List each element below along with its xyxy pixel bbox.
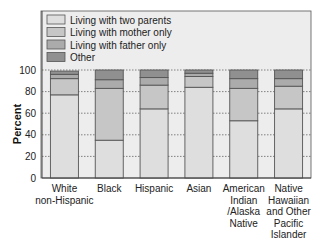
y-axis-label: Percent [11, 103, 23, 144]
x-tick-label: Hispanic [135, 183, 173, 194]
bar-segment-other [140, 70, 168, 78]
legend-label: Living with father only [70, 40, 166, 51]
stacked-bar-chart: Living with two parentsLiving with mothe… [0, 0, 327, 252]
bar-segment-living-with-father-only [230, 79, 258, 89]
legend-label: Living with two parents [70, 15, 171, 26]
bar-segment-living-with-father-only [50, 74, 78, 78]
y-tick-label: 80 [25, 86, 37, 97]
x-tick-label: NativeHawaiianand OtherPacificIslander [266, 183, 311, 240]
bar-segment-other [50, 71, 78, 74]
bar-segment-living-with-mother-only [140, 85, 168, 109]
y-tick-label: 100 [19, 65, 36, 76]
bar-segment-living-with-two-parents [230, 121, 258, 178]
x-tick-label: AmericanIndian/AlaskaNative [223, 183, 265, 229]
bar-segment-living-with-mother-only [230, 88, 258, 120]
bar-segment-living-with-mother-only [185, 76, 213, 87]
bar-segment-living-with-mother-only [50, 79, 78, 95]
bar-segment-living-with-father-only [140, 78, 168, 86]
bar-segment-living-with-mother-only [275, 86, 303, 109]
bar-segment-living-with-two-parents [140, 109, 168, 178]
x-tick-label: Black [97, 183, 122, 194]
bar-segment-other [95, 70, 123, 80]
bar-segment-living-with-two-parents [275, 109, 303, 178]
bar-segment-living-with-father-only [185, 73, 213, 76]
y-tick-label: 0 [30, 173, 36, 184]
legend-swatch [47, 28, 65, 37]
legend-label: Other [70, 52, 96, 63]
bar-segment-living-with-two-parents [185, 87, 213, 178]
y-tick-label: 20 [25, 151, 37, 162]
bar-segment-living-with-father-only [95, 80, 123, 89]
y-tick-label: 60 [25, 108, 37, 119]
bar-segment-other [275, 70, 303, 79]
bar-segment-living-with-two-parents [95, 140, 123, 178]
bar-segment-other [230, 70, 258, 79]
bar-segment-living-with-two-parents [50, 95, 78, 178]
legend-swatch [47, 40, 65, 49]
bar-segment-living-with-mother-only [95, 88, 123, 140]
bar-segment-living-with-father-only [275, 79, 303, 87]
legend-swatch [47, 15, 65, 24]
legend-label: Living with mother only [70, 27, 172, 38]
legend-swatch [47, 53, 65, 62]
y-tick-label: 40 [25, 129, 37, 140]
x-tick-label: Asian [186, 183, 211, 194]
x-tick-label: Whitenon-Hispanic [35, 183, 93, 206]
bar-segment-other [185, 70, 213, 73]
